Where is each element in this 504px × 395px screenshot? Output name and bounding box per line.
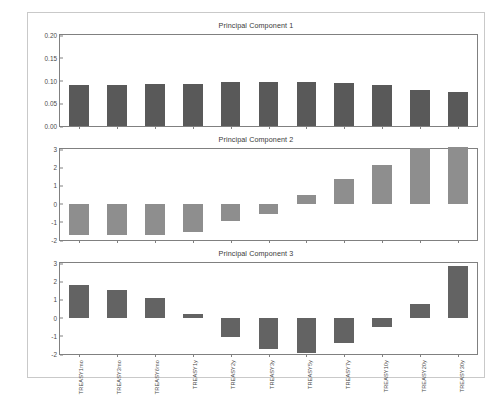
bar	[69, 85, 89, 126]
bar	[145, 204, 165, 236]
bar	[69, 204, 89, 236]
chart-panel-pc1: Principal Component 10.000.050.100.150.2…	[28, 21, 484, 129]
bar	[183, 204, 203, 232]
x-tick-mark	[193, 240, 194, 243]
bar	[372, 318, 392, 327]
bar	[410, 148, 430, 204]
x-tick-mark	[344, 240, 345, 243]
y-tick-label: 0.10	[45, 77, 60, 84]
bar	[297, 82, 317, 126]
x-tick-mark	[420, 240, 421, 243]
bar	[410, 304, 430, 318]
y-tick-label: 0.05	[45, 100, 60, 107]
bar	[297, 318, 317, 353]
chart-title-pc1: Principal Component 1	[28, 21, 484, 30]
y-tick-label: -1	[51, 218, 60, 225]
plot-area-pc2: -2-10123	[59, 148, 478, 241]
plot-area-pc3: -2-10123	[59, 262, 478, 355]
y-tick-label: 0.15	[45, 54, 60, 61]
bar	[372, 85, 392, 126]
x-tick-mark	[155, 126, 156, 129]
bar	[334, 318, 354, 344]
bar	[297, 195, 317, 203]
bar	[69, 285, 89, 318]
bar	[448, 266, 468, 318]
chart-title-pc3: Principal Component 3	[28, 249, 484, 258]
x-tick-mark	[458, 126, 459, 129]
x-tick-mark	[79, 240, 80, 243]
bar	[183, 314, 203, 318]
bar	[107, 85, 127, 126]
x-axis-tick-label: TREASY10y	[383, 360, 389, 392]
bar	[448, 147, 468, 203]
figure-frame: Principal Component 10.000.050.100.150.2…	[27, 12, 485, 378]
x-tick-mark	[79, 126, 80, 129]
bar	[448, 92, 468, 126]
bar	[221, 204, 241, 221]
x-axis-tick-label: TREASY5y	[307, 360, 313, 389]
x-axis-tick-label: TREASY20y	[421, 360, 427, 392]
x-tick-mark	[155, 240, 156, 243]
bar	[107, 204, 127, 236]
chart-title-pc2: Principal Component 2	[28, 135, 484, 144]
bar	[183, 84, 203, 126]
chart-panel-pc2: Principal Component 2-2-10123	[28, 135, 484, 243]
x-tick-mark	[269, 126, 270, 129]
x-axis-tick-label: TREASY6mo	[154, 360, 160, 394]
bar	[107, 290, 127, 318]
bar	[221, 318, 241, 337]
x-axis-tick-label: TREASY2y	[230, 360, 236, 389]
y-tick-label: -2	[51, 237, 60, 244]
bar	[259, 318, 279, 350]
bar	[259, 82, 279, 126]
x-tick-mark	[344, 126, 345, 129]
bar-group	[60, 263, 477, 354]
bar	[410, 90, 430, 126]
x-tick-mark	[458, 240, 459, 243]
x-axis-labels: TREASY1moTREASY3moTREASY6moTREASY1yTREAS…	[59, 357, 478, 395]
x-axis-tick-label: TREASY3mo	[116, 360, 122, 394]
x-tick-mark	[420, 126, 421, 129]
bar	[334, 83, 354, 126]
bar-group	[60, 35, 477, 126]
x-tick-mark	[231, 240, 232, 243]
bar-group	[60, 149, 477, 240]
plot-area-pc1: 0.000.050.100.150.20	[59, 34, 478, 127]
x-tick-mark	[117, 126, 118, 129]
x-tick-mark	[117, 240, 118, 243]
x-axis-tick-label: TREASY30y	[459, 360, 465, 392]
x-tick-mark	[269, 240, 270, 243]
bar	[372, 165, 392, 203]
x-tick-mark	[306, 240, 307, 243]
x-axis-tick-label: TREASY1mo	[78, 360, 84, 394]
x-axis-tick-label: TREASY7y	[345, 360, 351, 389]
chart-panel-pc3: Principal Component 3-2-10123	[28, 249, 484, 357]
x-axis-tick-label: TREASY1y	[192, 360, 198, 389]
bar	[145, 84, 165, 126]
x-axis-tick-label: TREASY3y	[269, 360, 275, 389]
x-tick-mark	[193, 126, 194, 129]
bar	[259, 204, 279, 214]
bar	[145, 298, 165, 317]
y-tick-label: 0.20	[45, 32, 60, 39]
bar	[221, 82, 241, 126]
x-tick-mark	[382, 240, 383, 243]
y-tick-label: -1	[51, 332, 60, 339]
bar	[334, 179, 354, 204]
y-tick-label: 0.00	[45, 123, 60, 130]
x-tick-mark	[382, 126, 383, 129]
x-tick-mark	[231, 126, 232, 129]
x-tick-mark	[306, 126, 307, 129]
